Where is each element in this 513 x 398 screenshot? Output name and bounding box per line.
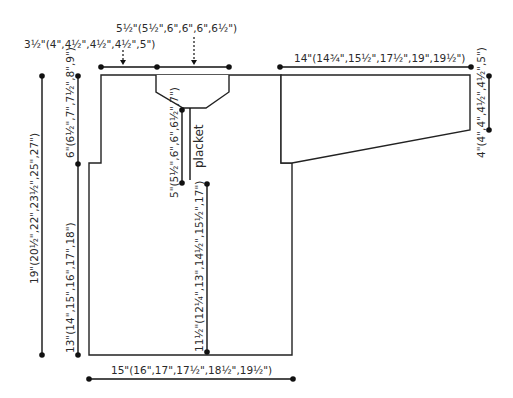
dim-endpoint [290,376,296,382]
dim-endpoint [75,352,81,358]
shoulder-label: 3½"(4",4½",4½",4½",5") [24,38,155,50]
dim-endpoint [486,73,492,79]
dim-endpoint [98,64,104,70]
body-to-armhole-label: 13"(14",15",16",17",18") [64,222,76,353]
sleeve-outline [281,75,470,163]
dim-endpoint [204,349,210,355]
dim-endpoint [486,127,492,133]
dim-endpoint [179,107,185,113]
total-length-label: 19"(20½",22",23½",25",27") [28,133,40,284]
dim-endpoint [39,73,45,79]
dim-endpoint [468,64,474,70]
dim-endpoint [226,64,232,70]
neck-width-label: 5½"(5½",6",6",6",6½") [116,22,237,34]
dim-endpoint [86,376,92,382]
dim-endpoint [75,161,81,167]
shoulder-arrowhead-icon [120,60,126,65]
placket-length-label: 5"(5½",6",6",6½",7") [168,87,180,198]
sleeve-length-label: 14"(14¾",15½",17½",19",19½") [294,52,465,64]
placket-label: placket [192,124,206,168]
dim-endpoint [39,352,45,358]
neck-arrowhead-icon [191,60,197,65]
hem-to-placket-label: 11½"(12¼",13",14½",15½",17") [193,181,205,352]
dim-endpoint [179,180,185,186]
armhole-depth-label: 6"(6½",7",7½",8",9") [64,47,76,158]
cuff-depth-label: 4"(4",4",4½",4½",5") [475,47,487,158]
width-label: 15"(16",17",17½",18½",19½") [111,364,272,376]
dim-endpoint [154,64,160,70]
dim-endpoint [204,181,210,187]
dim-endpoint [277,64,283,70]
sweater-schematic: 5½"(5½",6",6",6",6½") 3½"(4",4½",4½",4½"… [0,0,513,398]
dim-endpoint [75,73,81,79]
